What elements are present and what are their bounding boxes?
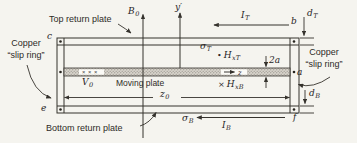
h-x-top-label: •HxT (217, 50, 240, 61)
z-axis-label: z (237, 69, 242, 77)
terminal-f-label: f (293, 112, 296, 122)
i-top-sub: T (245, 14, 249, 22)
h-x-bottom-sub: xB (235, 83, 243, 91)
b0-label: B0 (128, 6, 139, 17)
y-axis-label: y′ (175, 2, 182, 12)
copper-left-line2: “slip ring” (0, 50, 52, 62)
terminal-f: f (293, 112, 296, 122)
sigma-bottom-label: σB (182, 113, 193, 124)
i-bottom-sub: B (226, 124, 231, 132)
d-top-sub: T (313, 12, 317, 20)
i-top-label: IT (241, 10, 249, 21)
d-bottom-label: dB (309, 88, 320, 99)
into-page-crosses: × × × (82, 69, 98, 75)
terminal-b: b (291, 16, 297, 26)
copper-right-line2: “slip ring” (296, 59, 352, 71)
into-page-cross: × (218, 80, 227, 89)
left-slip-ring-pointer-arrow (27, 65, 51, 98)
gap-2a-label: 2a (269, 55, 280, 65)
half-gap-a-label: a (297, 67, 302, 77)
figure-canvas: × × × z (0, 0, 357, 143)
v0-main: V (82, 77, 89, 87)
bottom-return-plate-label: Bottom return plate (46, 123, 123, 133)
copper-slip-ring-right-label: Copper “slip ring” (296, 47, 352, 70)
out-of-page-dot: • (217, 51, 224, 60)
terminal-e-label: e (41, 103, 46, 113)
right-slip-ring-pointer-arrow (299, 77, 331, 86)
top-plate-pointer-arrow (118, 24, 131, 33)
moving-plate-label: Moving plate (116, 78, 164, 88)
bottom-plate-pointer-arrow (140, 113, 156, 127)
y-axis-main: y′ (175, 2, 182, 12)
z0-label: z0 (160, 89, 169, 100)
sigma-top-label: σT (200, 41, 211, 52)
sigma-top-main: σ (200, 41, 206, 51)
v0-sub: 0 (89, 81, 93, 89)
d-bottom-sub: B (315, 92, 320, 100)
terminal-b-label: b (291, 16, 297, 26)
copper-slip-ring-left-label: Copper “slip ring” (0, 38, 52, 61)
z0-sub: 0 (165, 93, 169, 101)
h-x-top-sub: xT (232, 54, 240, 62)
b0-main: B (128, 6, 135, 16)
v0-label: V0 (82, 77, 93, 88)
h-x-bottom-label: ×HxB (218, 79, 243, 90)
terminal-c-label: c (47, 31, 52, 41)
sigma-top-sub: T (207, 45, 211, 53)
b0-sub: 0 (135, 10, 139, 18)
sigma-bottom-sub: B (189, 117, 194, 125)
d-bottom-main: d (309, 88, 315, 98)
d-top-main: d (307, 8, 313, 18)
copper-left-line1: Copper (0, 38, 52, 50)
h-x-bottom-main: H (227, 79, 235, 89)
top-return-plate-label: Top return plate (49, 14, 112, 24)
h-x-top-main: H (224, 50, 232, 60)
d-top-thickness (300, 17, 314, 45)
terminal-e: e (41, 103, 46, 113)
sigma-bottom-main: σ (182, 113, 188, 123)
copper-right-line1: Copper (296, 47, 352, 59)
gap-2a-main: 2a (269, 55, 280, 65)
terminal-c: c (47, 31, 52, 41)
d-top-label: dT (307, 8, 317, 19)
i-bottom-label: IB (222, 120, 230, 131)
half-gap-a-main: a (297, 67, 302, 77)
